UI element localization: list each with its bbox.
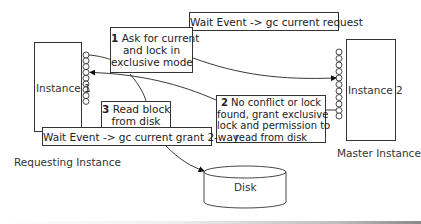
instance2-caption: Master Instance <box>337 147 421 159</box>
step1-box: 1 Ask for current and lock in exclusive … <box>110 27 193 73</box>
instance2-buffer-slots <box>336 49 342 119</box>
step2-number: 2 <box>221 97 228 108</box>
step2-line3: lock and permission to <box>217 120 325 132</box>
step2-line2: found, grant exclusive <box>217 109 325 121</box>
step3-line2: from disk <box>102 115 170 127</box>
step3-number: 3 <box>102 103 109 115</box>
step1-line2: and lock in <box>111 44 192 56</box>
disk-label: Disk <box>234 181 257 193</box>
instance2-label: Instance 2 <box>348 84 403 96</box>
instance1-caption: Requesting Instance <box>14 156 121 168</box>
step2-line1: No conflict or lock <box>231 97 321 108</box>
bottom-edge-shadow <box>0 221 421 224</box>
step1-number: 1 <box>111 32 118 44</box>
instance1-buffer-slots <box>83 52 89 104</box>
instance1-label: Instance 1 <box>36 82 91 94</box>
step1-line3: exclusive mode <box>111 56 192 68</box>
wait-event-grant-box: Wait Event -> gc current grant 2-way <box>42 127 212 146</box>
step3-line1: Read block <box>113 103 171 115</box>
step1-line1: Ask for current <box>122 32 200 44</box>
wait-event-request-text: Wait Event -> gc current request <box>190 16 363 28</box>
step3-box: 3 Read block from disk <box>101 101 171 128</box>
wait-event-grant-text: Wait Event -> gc current grant 2-way <box>43 131 239 143</box>
wait-event-request-box: Wait Event -> gc current request <box>189 12 339 31</box>
